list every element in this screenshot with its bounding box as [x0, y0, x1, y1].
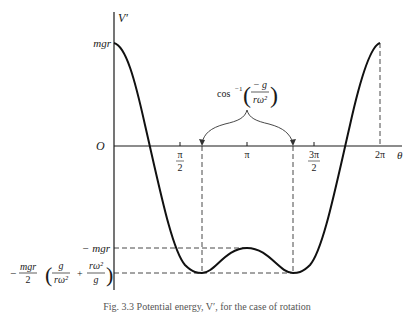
svg-text:): ) [270, 82, 278, 108]
svg-text:rω²: rω² [54, 274, 69, 285]
svg-text:2: 2 [26, 274, 31, 285]
potential-energy-chart: V′ θ O mgr − mgr − mgr 2 ( g rω² + rω² g… [0, 0, 414, 314]
origin-label: O [96, 139, 105, 153]
svg-text:−: − [10, 267, 16, 279]
svg-text:−1: −1 [235, 85, 243, 93]
svg-text:3π: 3π [309, 149, 319, 160]
svg-text:mgr: mgr [20, 261, 36, 272]
svg-text:g: g [59, 260, 64, 271]
figure-caption: Fig. 3.3 Potential energy, V′, for the c… [0, 301, 414, 312]
tick-pi-half: π 2 [176, 149, 184, 173]
svg-text:(: ( [45, 262, 52, 287]
svg-text:rω²: rω² [89, 260, 104, 271]
tick-two-pi: 2π [375, 149, 385, 160]
y-axis-label: V′ [118, 11, 128, 25]
svg-text:− g: − g [253, 79, 267, 90]
svg-text:cos: cos [217, 88, 230, 99]
svg-text:π: π [177, 149, 182, 160]
tick-three-pi-half: 3π 2 [308, 149, 320, 173]
svg-text:2: 2 [178, 162, 183, 173]
x-axis-label: θ [397, 149, 403, 161]
tick-pi: π [244, 149, 249, 160]
neg-mgr-label: − mgr [82, 242, 111, 254]
cos-inverse-brace [202, 110, 293, 143]
svg-text:): ) [106, 262, 113, 287]
svg-text:rω²: rω² [253, 94, 268, 105]
svg-text:(: ( [243, 82, 251, 108]
cos-inverse-annotation: cos −1 ( − g rω² ) [217, 79, 278, 108]
minimum-value-label: − mgr 2 ( g rω² + rω² g ) [10, 260, 113, 287]
mgr-label: mgr [93, 37, 111, 49]
svg-text:+: + [77, 268, 83, 279]
svg-text:g: g [94, 274, 99, 285]
svg-text:2: 2 [312, 162, 317, 173]
